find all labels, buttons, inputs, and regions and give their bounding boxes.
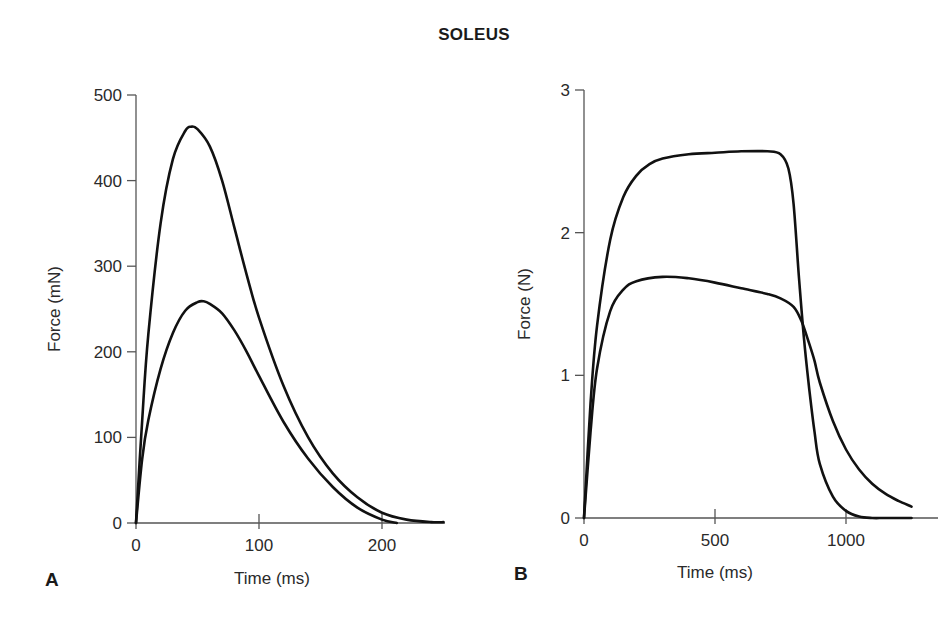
panel-b-chart: 0123 05001000 Force (N) Time (ms) B: [514, 81, 938, 584]
panel-a-label: A: [45, 569, 59, 590]
y-tick-label: 200: [94, 343, 122, 362]
y-tick-label: 1: [561, 366, 570, 385]
x-tick-label: 1000: [827, 531, 865, 550]
force-curve-upper: [136, 127, 444, 523]
force-curve-lower: [584, 277, 912, 518]
y-tick-label: 300: [94, 257, 122, 276]
panel-b-y-ticks: 0123: [561, 81, 584, 528]
chart-canvas: 0100200300400500 0100200 Force (mN) Time…: [0, 0, 948, 619]
panel-a-y-axis-title: Force (mN): [45, 266, 64, 352]
panel-b-curves: [584, 151, 912, 518]
x-tick-label: 500: [701, 531, 729, 550]
y-tick-label: 100: [94, 428, 122, 447]
x-tick-label: 200: [368, 536, 396, 555]
panel-a-x-axis-title: Time (ms): [234, 569, 310, 588]
panel-a-curves: [136, 127, 444, 523]
force-curve-upper: [584, 151, 912, 518]
panel-a-y-ticks: 0100200300400500: [94, 86, 136, 533]
panel-b-x-axis-title: Time (ms): [677, 563, 753, 582]
x-tick-label: 0: [579, 531, 588, 550]
y-tick-label: 500: [94, 86, 122, 105]
panel-a-chart: 0100200300400500 0100200 Force (mN) Time…: [45, 86, 445, 590]
y-tick-label: 2: [561, 224, 570, 243]
panel-a-x-ticks: 0100200: [131, 514, 396, 555]
panel-b-x-ticks: 05001000: [579, 509, 865, 550]
y-tick-label: 400: [94, 172, 122, 191]
panel-b-label: B: [514, 563, 528, 584]
x-tick-label: 100: [245, 536, 273, 555]
x-tick-label: 0: [131, 536, 140, 555]
panel-b-y-axis-title: Force (N): [515, 268, 534, 340]
y-tick-label: 0: [113, 514, 122, 533]
force-curve-lower: [136, 301, 397, 523]
y-tick-label: 3: [561, 81, 570, 100]
y-tick-label: 0: [561, 509, 570, 528]
